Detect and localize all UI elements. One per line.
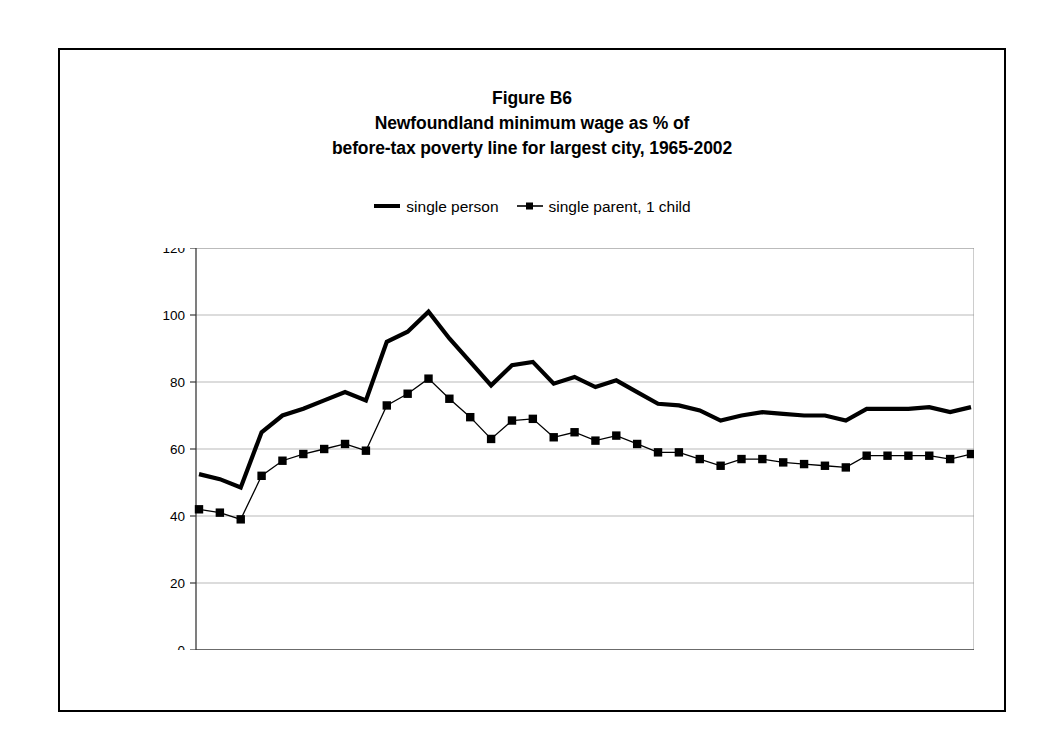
y-tick-label-120: 120 xyxy=(162,248,185,256)
data-point-marker xyxy=(487,435,495,443)
data-point-marker xyxy=(654,448,662,456)
legend-label-single-parent: single parent, 1 child xyxy=(549,198,691,216)
data-point-marker xyxy=(341,440,349,448)
data-point-marker xyxy=(403,390,411,398)
y-tick-label-0: 0 xyxy=(177,643,185,650)
title-line-3: before-tax poverty line for largest city… xyxy=(60,136,1004,161)
legend-line-marker-swatch-single-parent xyxy=(516,198,544,216)
data-point-marker xyxy=(508,416,516,424)
data-point-marker xyxy=(716,462,724,470)
data-point-marker xyxy=(383,401,391,409)
data-point-marker xyxy=(946,455,954,463)
series-line-single-person xyxy=(199,312,971,488)
data-point-marker xyxy=(800,460,808,468)
y-tick-label-60: 60 xyxy=(170,442,185,457)
data-point-marker xyxy=(550,433,558,441)
data-point-marker xyxy=(779,458,787,466)
legend-entry-single-parent: single parent, 1 child xyxy=(516,198,691,216)
data-point-marker xyxy=(362,446,370,454)
y-tick-label-20: 20 xyxy=(170,576,185,591)
legend-entry-single-person: single person xyxy=(373,198,498,216)
data-point-marker xyxy=(904,452,912,460)
plot-area: 020406080100120 1965707580859095200002 xyxy=(138,248,974,650)
data-point-marker xyxy=(299,450,307,458)
data-point-marker xyxy=(612,431,620,439)
data-point-marker xyxy=(862,452,870,460)
data-point-marker xyxy=(675,448,683,456)
data-point-marker xyxy=(320,445,328,453)
data-point-marker xyxy=(737,455,745,463)
y-tick-labels: 020406080100120 xyxy=(162,248,185,650)
data-point-marker xyxy=(591,436,599,444)
y-tick-label-40: 40 xyxy=(170,509,185,524)
data-point-marker xyxy=(925,452,933,460)
title-line-2: Newfoundland minimum wage as % of xyxy=(60,111,1004,136)
figure-title: Figure B6 Newfoundland minimum wage as %… xyxy=(60,86,1004,161)
data-point-marker xyxy=(842,463,850,471)
data-point-marker xyxy=(967,450,974,458)
data-point-marker xyxy=(821,462,829,470)
data-point-marker xyxy=(570,428,578,436)
chart-legend: single person single parent, 1 child xyxy=(60,198,1004,216)
y-tick-label-100: 100 xyxy=(162,308,185,323)
data-point-marker xyxy=(195,505,203,513)
data-point-marker xyxy=(529,415,537,423)
data-point-marker xyxy=(758,455,766,463)
data-point-marker xyxy=(445,395,453,403)
data-point-marker xyxy=(278,457,286,465)
data-point-marker xyxy=(696,455,704,463)
y-axis xyxy=(190,248,196,650)
data-point-marker xyxy=(633,440,641,448)
data-point-marker xyxy=(424,374,432,382)
data-point-marker xyxy=(466,413,474,421)
series-single-person xyxy=(199,312,971,488)
title-line-1: Figure B6 xyxy=(60,86,1004,111)
legend-label-single-person: single person xyxy=(406,198,498,216)
y-tick-label-80: 80 xyxy=(170,375,185,390)
data-point-marker xyxy=(216,508,224,516)
data-point-marker xyxy=(257,472,265,480)
legend-line-swatch-single-person xyxy=(373,198,401,216)
figure-frame: Figure B6 Newfoundland minimum wage as %… xyxy=(58,48,1006,712)
data-point-marker xyxy=(237,515,245,523)
data-point-marker xyxy=(883,452,891,460)
chart-svg: 020406080100120 1965707580859095200002 xyxy=(138,248,974,650)
